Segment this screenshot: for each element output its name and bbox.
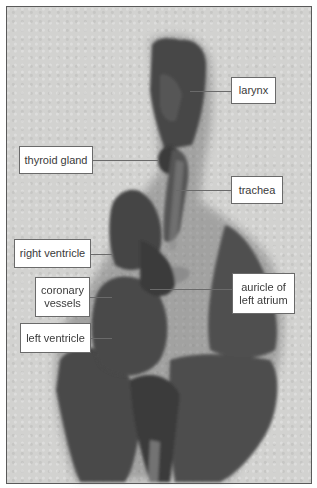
label-coronary-vessels-line2: vessels	[44, 297, 81, 310]
label-coronary-vessels: coronary vessels	[35, 277, 90, 317]
leader-auricle-left-atrium	[150, 289, 232, 290]
label-right-ventricle-text: right ventricle	[20, 247, 85, 260]
label-trachea: trachea	[231, 176, 283, 204]
leader-trachea	[176, 190, 231, 191]
label-auricle-left-atrium-line2: left atrium	[239, 294, 287, 307]
leader-right-ventricle	[90, 254, 112, 255]
leader-thyroid-gland	[92, 160, 158, 161]
label-trachea-text: trachea	[239, 184, 276, 197]
label-left-ventricle-text: left ventricle	[26, 332, 85, 345]
label-auricle-left-atrium-line1: auricle of	[241, 281, 286, 294]
leader-coronary-vessels	[89, 297, 112, 298]
leader-larynx	[190, 91, 231, 92]
label-thyroid-gland: thyroid gland	[19, 146, 93, 174]
label-left-ventricle: left ventricle	[20, 323, 91, 353]
label-larynx: larynx	[231, 77, 276, 104]
label-right-ventricle: right ventricle	[14, 239, 91, 268]
label-larynx-text: larynx	[239, 84, 268, 97]
label-auricle-left-atrium: auricle of left atrium	[232, 273, 295, 314]
label-thyroid-gland-text: thyroid gland	[25, 154, 88, 167]
label-coronary-vessels-line1: coronary	[41, 284, 84, 297]
leader-left-ventricle	[90, 338, 112, 339]
